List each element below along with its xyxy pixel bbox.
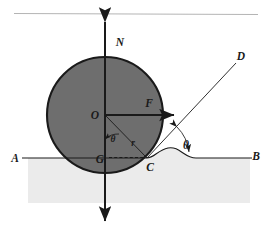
label-o: O [91,109,99,121]
figure-container: N D F O θ r A G C θ B [0,0,271,237]
label-n: N [115,36,125,48]
label-theta-inner: θ [111,134,116,144]
label-a: A [10,152,19,164]
label-f: F [144,97,153,109]
top-rule [14,14,258,15]
label-d: D [236,50,246,62]
label-b: B [251,150,260,162]
label-c: C [146,161,154,173]
label-r: r [131,138,135,148]
label-theta-outer: θ [183,139,189,151]
diagram-canvas: N D F O θ r A G C θ B [0,0,271,237]
label-g: G [96,153,105,165]
